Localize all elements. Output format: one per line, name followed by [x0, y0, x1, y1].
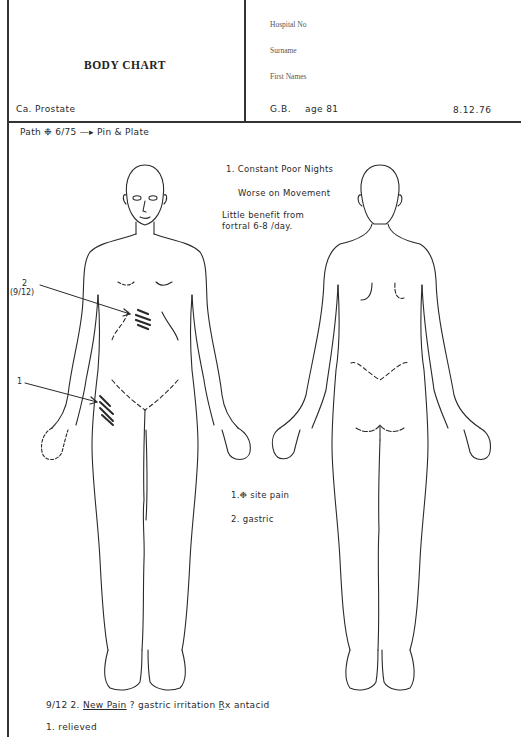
body-figures [0, 0, 521, 737]
pain-marker-1-hatch [100, 396, 113, 425]
body-chart-page: BODY CHART Ca. Prostate Hospital No Surn… [0, 0, 521, 737]
pain-marker-2-hatch [136, 310, 150, 329]
back-body-figure [272, 165, 490, 690]
front-body-figure [25, 165, 250, 690]
